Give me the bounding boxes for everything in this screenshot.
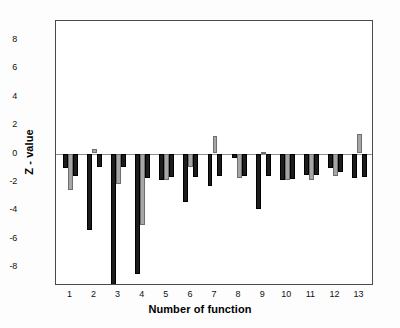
y-tick-mark	[55, 68, 56, 69]
bar-f1-s3	[73, 154, 78, 177]
x-tick-label: 13	[354, 289, 364, 299]
bar-f7-s3	[217, 154, 222, 176]
x-tick-mark	[143, 20, 144, 21]
y-tick-label: -8	[9, 261, 17, 271]
y-tick-mark	[372, 68, 373, 69]
x-tick-label: 10	[281, 289, 291, 299]
x-tick-mark	[239, 284, 240, 285]
bar-f2-s3	[97, 154, 102, 168]
y-tick-label: 4	[12, 91, 17, 101]
x-axis-title: Number of function	[0, 303, 400, 315]
x-tick-mark	[335, 284, 336, 285]
x-tick-mark	[191, 20, 192, 21]
x-tick-label: 1	[67, 289, 72, 299]
y-tick-mark	[55, 267, 56, 268]
x-tick-label: 7	[211, 289, 216, 299]
bar-f6-s3	[193, 154, 198, 178]
x-tick-mark	[335, 20, 336, 21]
x-tick-mark	[360, 20, 361, 21]
bar-f13-s2	[357, 134, 362, 154]
x-tick-label: 6	[187, 289, 192, 299]
x-tick-label: 12	[329, 289, 339, 299]
y-tick-mark	[372, 125, 373, 126]
y-tick-mark	[372, 239, 373, 240]
y-tick-label: 2	[12, 119, 17, 129]
y-tick-mark	[372, 40, 373, 41]
x-tick-mark	[287, 20, 288, 21]
bar-f9-s3	[266, 154, 271, 177]
x-tick-label: 8	[236, 289, 241, 299]
y-tick-mark	[55, 97, 56, 98]
x-tick-mark	[263, 20, 264, 21]
x-tick-mark	[215, 20, 216, 21]
x-tick-mark	[239, 20, 240, 21]
y-tick-mark	[372, 267, 373, 268]
x-tick-label: 5	[163, 289, 168, 299]
y-tick-mark	[372, 210, 373, 211]
x-tick-mark	[70, 20, 71, 21]
x-tick-mark	[311, 20, 312, 21]
bar-f3-s3	[121, 154, 126, 168]
bar-f13-s3	[362, 154, 367, 178]
x-tick-label: 11	[306, 289, 315, 299]
x-tick-mark	[263, 284, 264, 285]
zero-reference-line	[56, 154, 372, 155]
figure-canvas: Z - value 86420-2-4-6-8 1234567891011121…	[0, 0, 400, 328]
x-tick-mark	[360, 284, 361, 285]
y-tick-mark	[372, 97, 373, 98]
x-tick-label: 4	[139, 289, 144, 299]
x-tick-mark	[95, 284, 96, 285]
x-tick-mark	[167, 284, 168, 285]
x-tick-mark	[311, 284, 312, 285]
bar-f9-s1	[256, 154, 261, 210]
x-tick-mark	[70, 284, 71, 285]
y-tick-label: -6	[9, 233, 17, 243]
y-tick-label: -2	[9, 176, 17, 186]
y-tick-mark	[372, 154, 373, 155]
x-tick-mark	[215, 284, 216, 285]
x-tick-mark	[167, 20, 168, 21]
x-tick-mark	[95, 20, 96, 21]
y-axis-title: Z - value	[23, 129, 35, 175]
bar-f13-s1	[352, 154, 357, 178]
bar-f11-s3	[314, 154, 319, 175]
x-tick-label: 3	[115, 289, 120, 299]
y-tick-label: 6	[12, 62, 17, 72]
y-tick-label: -4	[9, 204, 17, 214]
y-tick-label: 8	[12, 34, 17, 44]
x-tick-mark	[143, 284, 144, 285]
x-tick-mark	[191, 284, 192, 285]
y-tick-mark	[55, 210, 56, 211]
x-tick-mark	[287, 284, 288, 285]
x-tick-mark	[119, 284, 120, 285]
x-tick-label: 2	[91, 289, 96, 299]
x-tick-label: 9	[260, 289, 265, 299]
y-tick-mark	[55, 239, 56, 240]
bar-f5-s3	[169, 154, 174, 178]
bar-f8-s3	[242, 154, 247, 177]
bar-f12-s3	[338, 154, 343, 173]
bar-f10-s3	[290, 154, 295, 180]
bar-f7-s1	[208, 154, 213, 186]
y-tick-mark	[55, 154, 56, 155]
x-tick-mark	[119, 20, 120, 21]
y-tick-mark	[55, 40, 56, 41]
y-tick-mark	[55, 125, 56, 126]
y-tick-mark	[372, 182, 373, 183]
bar-f7-s2	[213, 136, 218, 154]
y-tick-mark	[55, 182, 56, 183]
bar-f4-s3	[145, 154, 150, 178]
plot-area	[55, 20, 373, 285]
y-tick-label: 0	[12, 148, 17, 158]
bar-f2-s1	[87, 154, 92, 230]
